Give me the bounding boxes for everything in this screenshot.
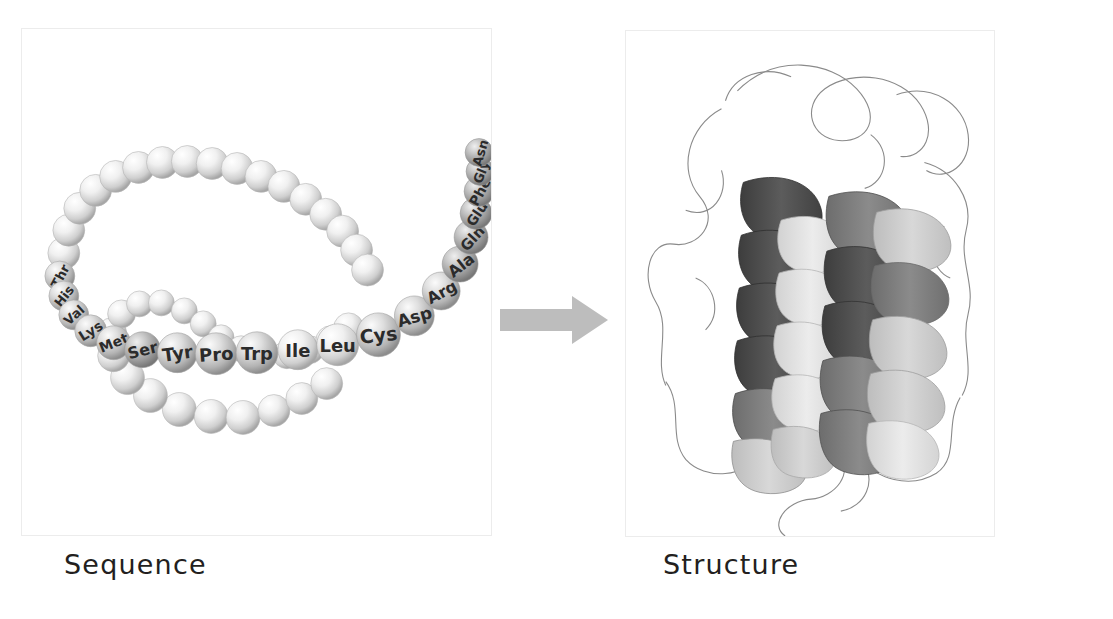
sequence-panel: Thr His Val Lys (21, 28, 492, 536)
residue-bead-pro: Pro (195, 333, 237, 375)
residue-bead-asn: Asn (465, 138, 491, 168)
residue-bead-cys: Cys (357, 313, 401, 357)
structure-caption: Structure (663, 549, 799, 580)
structure-illustration (626, 31, 994, 536)
residue-label-cys: Cys (359, 322, 399, 348)
residue-label-tyr: Tyr (161, 341, 194, 366)
arrow-right-icon (500, 296, 608, 344)
residue-label-leu: Leu (320, 335, 356, 356)
bead-chain-unlabeled-upper-arc (48, 146, 384, 286)
residue-bead-ile: Ile (278, 330, 318, 370)
protein-sequence-structure-figure: Thr His Val Lys (0, 0, 1113, 619)
sequence-caption: Sequence (64, 549, 207, 580)
helix-ribbon-4 (867, 209, 951, 479)
residue-label-ile: Ile (285, 340, 310, 361)
residue-label-pro: Pro (198, 343, 234, 366)
residue-bead-leu: Leu (317, 324, 359, 366)
residue-bead-trp: Trp (236, 332, 278, 374)
residue-bead-ser: Ser (125, 332, 161, 368)
sequence-illustration: Thr His Val Lys (22, 29, 491, 535)
residue-bead-tyr: Tyr (157, 333, 197, 373)
structure-panel (625, 30, 995, 537)
residue-label-trp: Trp (241, 343, 273, 364)
transformation-arrow (500, 296, 608, 344)
